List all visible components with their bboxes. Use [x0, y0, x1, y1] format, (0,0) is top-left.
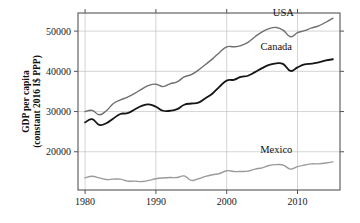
series-label-usa: USA [273, 7, 294, 18]
y-axis-label-line-2: (constant 2016 I$ PPP) [32, 55, 43, 148]
y-tick-label-0: 20000 [46, 146, 71, 157]
y-tick-label-2: 40000 [46, 66, 71, 77]
x-tick-label-2: 2000 [217, 196, 237, 207]
chart-figure: 200003000040000500001980199020002010 USA… [0, 0, 360, 223]
y-tick-label-3: 50000 [46, 26, 71, 37]
x-tick-label-0: 1980 [75, 196, 95, 207]
x-tick-label-3: 2010 [288, 196, 308, 207]
gdp-per-capita-line-chart: 200003000040000500001980199020002010 USA… [0, 0, 360, 223]
x-tick-label-1: 1990 [146, 196, 166, 207]
series-label-mexico: Mexico [260, 144, 292, 155]
series-label-canada: Canada [261, 41, 293, 52]
y-axis-label-line-1: GDP per capita [21, 70, 31, 133]
y-tick-label-1: 30000 [46, 106, 71, 117]
